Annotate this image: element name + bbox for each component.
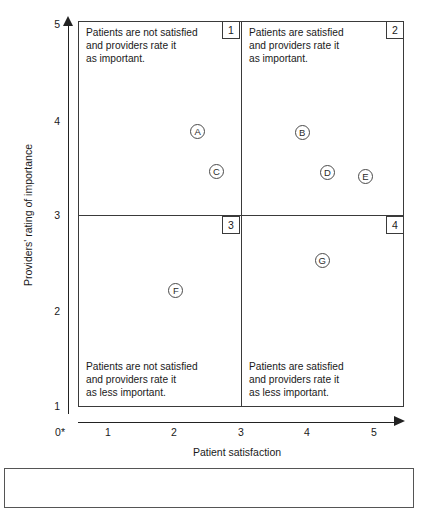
quadrant-badge-3: 3 (222, 216, 240, 234)
x-axis-tick-4: 4 (295, 426, 319, 438)
y-axis-title: Providers' rating of importance (22, 65, 34, 365)
x-axis-arrow-icon (394, 416, 405, 426)
y-axis-tick-3: 3 (38, 209, 60, 221)
data-point-f[interactable]: F (168, 283, 183, 298)
x-axis-tick-1: 1 (96, 426, 120, 438)
data-point-b[interactable]: B (295, 125, 310, 140)
y-axis-tick-1: 1 (38, 400, 60, 412)
x-axis-line (78, 422, 396, 423)
x-axis-tick-3: 3 (229, 426, 253, 438)
x-axis-title: Patient satisfaction (78, 446, 396, 458)
quadrant-text-3: Patients are not satisfied and providers… (86, 360, 198, 400)
quadrant-text-4: Patients are satisfied and providers rat… (249, 360, 344, 400)
y-axis-tick-5: 5 (38, 18, 60, 30)
quadrant-text-2: Patients are satisfied and providers rat… (249, 26, 344, 66)
data-point-d[interactable]: D (320, 165, 335, 180)
y-axis-line (68, 24, 69, 414)
quadrant-divider-horizontal (78, 215, 404, 216)
x-axis-tick-2: 2 (162, 426, 186, 438)
quadrant-badge-2: 2 (386, 21, 404, 39)
quadrant-badge-4: 4 (386, 216, 404, 234)
data-point-c[interactable]: C (209, 164, 224, 179)
quadrant-divider-vertical (241, 21, 242, 407)
data-point-g[interactable]: G (315, 253, 330, 268)
x-axis-tick-5: 5 (362, 426, 386, 438)
figure-caption-box (4, 468, 414, 508)
y-axis-tick-2: 2 (38, 305, 60, 317)
y-axis-tick-4: 4 (38, 115, 60, 127)
quadrant-badge-1: 1 (222, 21, 240, 39)
y-axis-arrow-icon (63, 16, 73, 26)
data-point-e[interactable]: E (358, 169, 373, 184)
y-axis-origin-label: 0* (43, 426, 65, 438)
quadrant-text-1: Patients are not satisfied and providers… (86, 26, 198, 66)
